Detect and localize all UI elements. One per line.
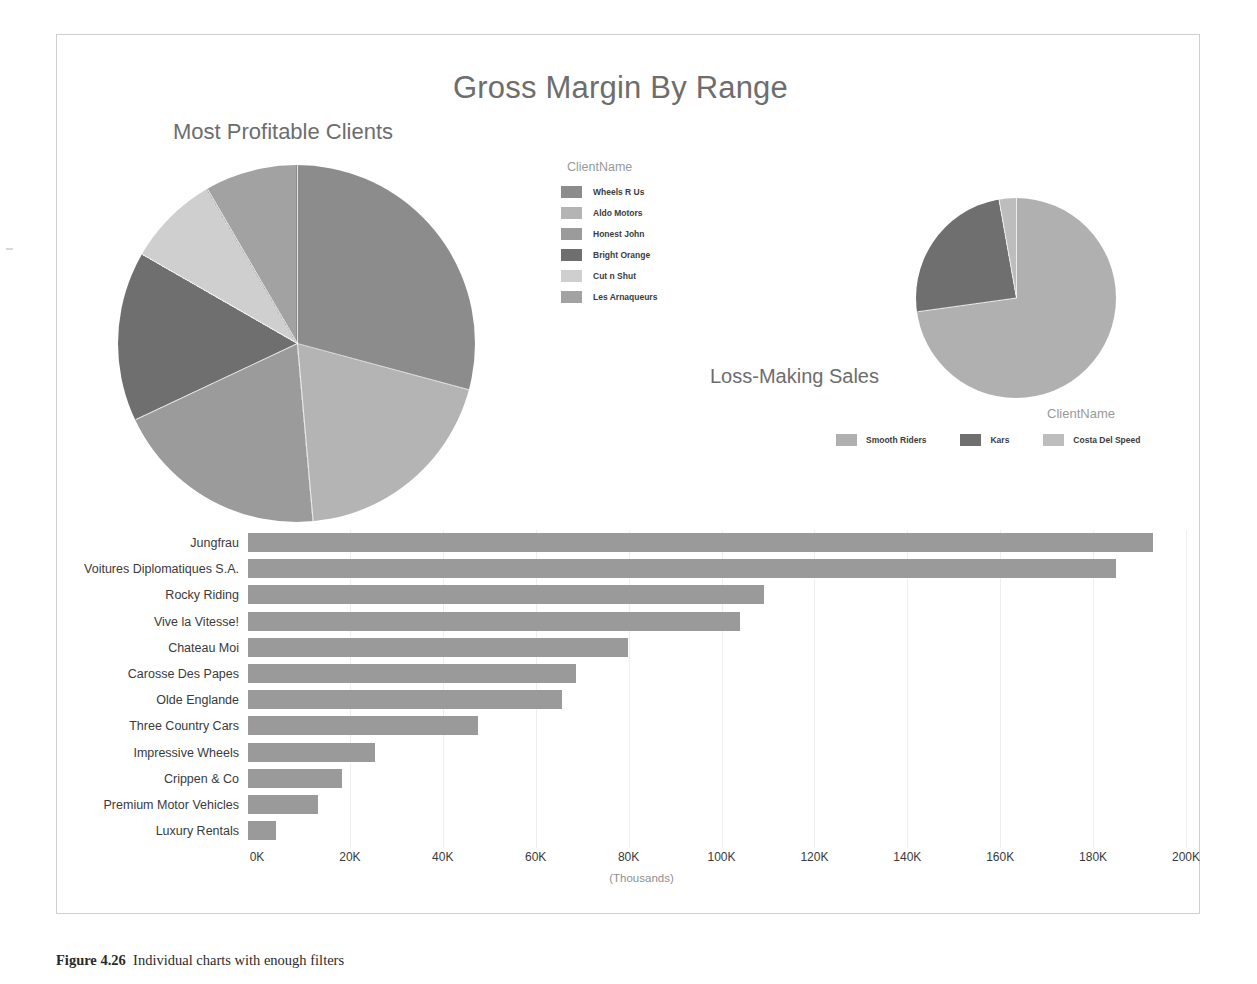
- bar-chart-row[interactable]: Vive la Vitesse!: [56, 609, 1186, 635]
- pie-chart-loss-making-sales[interactable]: [916, 198, 1116, 398]
- legend-swatch-icon: [960, 434, 981, 446]
- bar-category-label: Olde Englande: [56, 693, 248, 707]
- pie-slice-divider: [1016, 198, 1017, 298]
- pie-slice-divider: [142, 254, 297, 344]
- legend-item[interactable]: Costa Del Speed: [1043, 429, 1140, 450]
- bar-chart-row[interactable]: Voitures Diplomatiques S.A.: [56, 556, 1186, 582]
- bar-chart-row[interactable]: Premium Motor Vehicles: [56, 792, 1186, 818]
- scan-artifact-mark: [6, 248, 13, 250]
- bar-track: [248, 530, 1186, 556]
- x-axis-tick-label: 100K: [707, 850, 735, 864]
- bar-chart-x-axis: 0K20K40K60K80K100K120K140K160K180K200K: [257, 850, 1186, 870]
- legend-item[interactable]: Kars: [960, 429, 1009, 450]
- report-title: Gross Margin By Range: [0, 70, 1249, 106]
- legend-item[interactable]: Aldo Motors: [561, 202, 711, 223]
- bar-track: [248, 582, 1186, 608]
- bar[interactable]: [248, 716, 478, 735]
- bar-track: [248, 713, 1186, 739]
- bar-track: [248, 740, 1186, 766]
- bar-category-label: Three Country Cars: [56, 719, 248, 733]
- bar-chart-row[interactable]: Impressive Wheels: [56, 740, 1186, 766]
- legend-item-label: Kars: [990, 435, 1009, 445]
- bar-track: [248, 661, 1186, 687]
- bar-chart-row[interactable]: Olde Englande: [56, 687, 1186, 713]
- x-axis-tick-label: 80K: [618, 850, 639, 864]
- legend-item-label: Costa Del Speed: [1073, 435, 1140, 445]
- bar-category-label: Luxury Rentals: [56, 824, 248, 838]
- legend-item[interactable]: Wheels R Us: [561, 181, 711, 202]
- legend-item[interactable]: Bright Orange: [561, 244, 711, 265]
- legend-item[interactable]: Les Arnaqueurs: [561, 286, 711, 307]
- bar[interactable]: [248, 795, 318, 814]
- legend-item[interactable]: Cut n Shut: [561, 265, 711, 286]
- legend-item[interactable]: Smooth Riders: [836, 429, 926, 450]
- legend-swatch-icon: [561, 186, 582, 198]
- report-page: Gross Margin By Range Most Profitable Cl…: [0, 0, 1257, 984]
- legend-swatch-icon: [836, 434, 857, 446]
- bar-category-label: Carosse Des Papes: [56, 667, 248, 681]
- pie1-legend-title: ClientName: [561, 160, 711, 174]
- bar[interactable]: [248, 769, 342, 788]
- x-axis-tick-label: 60K: [525, 850, 546, 864]
- pie-slice-divider: [297, 165, 298, 344]
- pie-chart-most-profitable-clients[interactable]: [118, 165, 475, 522]
- pie-slice-divider: [207, 189, 298, 344]
- pie2-legend: ClientName Smooth Riders Kars Costa Del …: [836, 406, 1196, 450]
- bar-chart-axis-units: (Thousands): [177, 872, 1106, 884]
- bar[interactable]: [248, 821, 276, 840]
- bar-category-label: Vive la Vitesse!: [56, 615, 248, 629]
- legend-swatch-icon: [561, 291, 582, 303]
- bar[interactable]: [248, 559, 1116, 578]
- bar-chart-row[interactable]: Rocky Riding: [56, 582, 1186, 608]
- x-axis-tick-label: 120K: [800, 850, 828, 864]
- bar-category-label: Jungfrau: [56, 536, 248, 550]
- pie-slice-divider: [999, 199, 1017, 298]
- legend-item-label: Honest John: [593, 229, 644, 239]
- figure-caption-text: Individual charts with enough filters: [133, 952, 344, 968]
- bar[interactable]: [248, 638, 628, 657]
- bar-chart-rows: JungfrauVoitures Diplomatiques S.A.Rocky…: [56, 530, 1186, 844]
- bar-category-label: Crippen & Co: [56, 772, 248, 786]
- bar-category-label: Premium Motor Vehicles: [56, 798, 248, 812]
- legend-swatch-icon: [561, 249, 582, 261]
- bar-chart-row[interactable]: Carosse Des Papes: [56, 661, 1186, 687]
- x-axis-tick-label: 140K: [893, 850, 921, 864]
- bar-category-label: Voitures Diplomatiques S.A.: [56, 562, 248, 576]
- pie-slice-divider: [297, 343, 470, 391]
- bar[interactable]: [248, 612, 740, 631]
- bar-category-label: Chateau Moi: [56, 641, 248, 655]
- bar-track: [248, 635, 1186, 661]
- bar[interactable]: [248, 585, 764, 604]
- bar[interactable]: [248, 743, 375, 762]
- bar-track: [248, 792, 1186, 818]
- x-axis-tick-label: 0K: [250, 850, 265, 864]
- bar[interactable]: [248, 664, 576, 683]
- legend-swatch-icon: [561, 228, 582, 240]
- bar-category-label: Rocky Riding: [56, 588, 248, 602]
- bar-track: [248, 818, 1186, 844]
- bar-track: [248, 766, 1186, 792]
- bar-chart-gross-margin[interactable]: JungfrauVoitures Diplomatiques S.A.Rocky…: [56, 530, 1186, 860]
- x-axis-tick-label: 40K: [432, 850, 453, 864]
- bar-chart-row[interactable]: Luxury Rentals: [56, 818, 1186, 844]
- bar-chart-row[interactable]: Crippen & Co: [56, 766, 1186, 792]
- bar-chart-row[interactable]: Three Country Cars: [56, 713, 1186, 739]
- legend-item-label: Cut n Shut: [593, 271, 636, 281]
- bar-chart-row[interactable]: Jungfrau: [56, 530, 1186, 556]
- bar[interactable]: [248, 690, 562, 709]
- bar-track: [248, 556, 1186, 582]
- legend-swatch-icon: [561, 207, 582, 219]
- pie2-title: Loss-Making Sales: [710, 365, 879, 388]
- pie2-legend-title: ClientName: [836, 406, 1196, 421]
- bar[interactable]: [248, 533, 1153, 552]
- legend-item-label: Les Arnaqueurs: [593, 292, 657, 302]
- legend-item-label: Smooth Riders: [866, 435, 926, 445]
- pie-slice-divider: [135, 343, 297, 420]
- legend-item[interactable]: Honest John: [561, 223, 711, 244]
- bar-track: [248, 609, 1186, 635]
- x-axis-tick-label: 180K: [1079, 850, 1107, 864]
- bar-chart-row[interactable]: Chateau Moi: [56, 635, 1186, 661]
- pie-slice-divider: [297, 343, 314, 521]
- figure-caption: Figure 4.26 Individual charts with enoug…: [56, 952, 344, 969]
- bar-track: [248, 687, 1186, 713]
